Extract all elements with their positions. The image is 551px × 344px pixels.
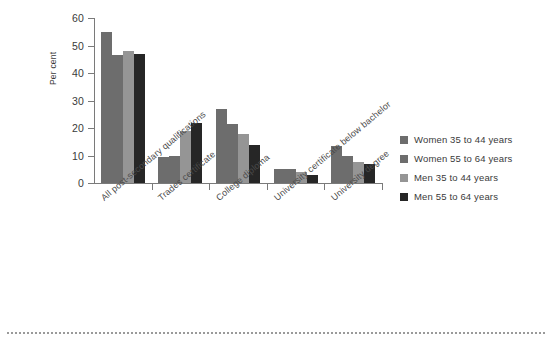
bar-group	[331, 18, 375, 183]
bar	[112, 55, 123, 183]
y-axis-tick-label: 60	[54, 13, 84, 23]
y-axis-tick-label-wrap: 40	[50, 68, 84, 78]
legend-item-label: Men 35 to 44 years	[414, 172, 498, 183]
bar	[216, 109, 227, 183]
legend-item: Women 35 to 44 years	[400, 130, 550, 149]
bar-group	[101, 18, 145, 183]
y-axis-tick-label-wrap: 30	[50, 96, 84, 106]
y-axis-tick-label: 40	[54, 68, 84, 78]
legend-item: Women 55 to 64 years	[400, 149, 550, 168]
bar	[101, 32, 112, 183]
bar-group	[158, 18, 202, 183]
legend-item: Men 55 to 64 years	[400, 187, 550, 206]
bar	[158, 157, 169, 183]
legend-swatch-icon	[400, 155, 408, 163]
x-axis-group-separator-tick	[382, 184, 383, 190]
bar	[274, 169, 285, 183]
x-axis-group-separator-tick	[324, 184, 325, 190]
y-axis-tick-label: 30	[54, 96, 84, 106]
y-axis-tick	[88, 183, 94, 184]
plot-area	[94, 18, 382, 183]
legend-item-label: Men 55 to 64 years	[414, 191, 498, 202]
bar-group	[216, 18, 260, 183]
y-axis-tick-label: 50	[54, 41, 84, 51]
legend-swatch-icon	[400, 174, 408, 182]
legend-swatch-icon	[400, 136, 408, 144]
y-axis-tick-label-wrap: 50	[50, 41, 84, 51]
legend-item-label: Women 55 to 64 years	[414, 153, 512, 164]
bar-group	[274, 18, 318, 183]
legend-item-label: Women 35 to 44 years	[414, 134, 512, 145]
y-axis-tick-label: 0	[54, 178, 84, 188]
y-axis-tick-label-wrap: 0	[50, 178, 84, 188]
bar-chart-figure: Per cent 0102030405060 All post-secondar…	[0, 0, 551, 344]
legend-swatch-icon	[400, 193, 408, 201]
x-axis-group-separator-tick	[267, 184, 268, 190]
legend-item: Men 35 to 44 years	[400, 168, 550, 187]
y-axis-tick-label: 10	[54, 151, 84, 161]
y-axis-tick-label-wrap: 20	[50, 123, 84, 133]
y-axis-tick-label-wrap: 10	[50, 151, 84, 161]
y-axis-tick-label-wrap: 60	[50, 13, 84, 23]
x-axis-group-separator-tick	[152, 184, 153, 190]
bar	[227, 124, 238, 183]
bottom-dotted-rule	[6, 332, 545, 334]
y-axis-tick-label: 20	[54, 123, 84, 133]
chart-legend: Women 35 to 44 yearsWomen 55 to 64 years…	[400, 130, 550, 206]
x-axis-group-separator-tick	[209, 184, 210, 190]
bar	[123, 51, 134, 183]
